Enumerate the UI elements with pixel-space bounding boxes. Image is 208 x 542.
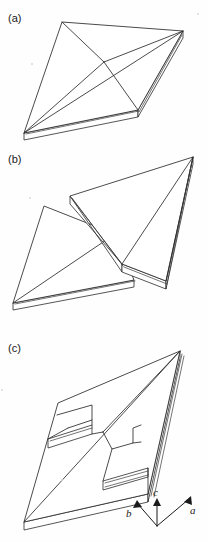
figure-text-layer: (a) (b) (c) b c a [0, 0, 208, 542]
panel-a-label: (a) [8, 12, 21, 24]
panel-b-label: (b) [8, 153, 21, 165]
axis-label-a: a [190, 504, 196, 516]
panel-c-label: (c) [8, 342, 21, 354]
axis-label-c: c [153, 486, 158, 498]
axis-label-b: b [126, 507, 132, 519]
figure-root: (a) (b) (c) b c a [0, 0, 208, 542]
